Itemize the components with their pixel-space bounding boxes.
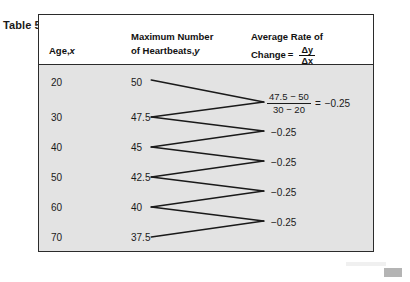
column-header-heartbeats-line2: of Heartbeats, <box>131 45 194 58</box>
data-table: Age, x Maximum Number of Heartbeats, y A… <box>38 14 374 252</box>
connector-line <box>151 80 263 102</box>
cell-age: 50 <box>51 172 62 183</box>
column-header-heartbeats-line1: Maximum Number <box>131 31 213 44</box>
rate-fraction: 47.5 − 50 30 − 20 <box>267 91 311 116</box>
cell-age: 60 <box>51 202 62 213</box>
column-header-age-text: Age, <box>49 45 70 58</box>
delta-fraction: Δy Δx <box>299 45 314 66</box>
column-header-rate-line2: Change <box>251 49 286 62</box>
cell-heartbeats: 37.5 <box>131 232 150 243</box>
column-header-heartbeats-variable: y <box>194 45 199 58</box>
cell-rate-value: −0.25 <box>271 187 296 198</box>
connector-line <box>151 221 263 237</box>
cell-rate-value: −0.25 <box>271 217 296 228</box>
connector-line <box>151 131 263 147</box>
table-header: Age, x Maximum Number of Heartbeats, y A… <box>39 15 373 65</box>
page-artifact-light <box>346 262 386 266</box>
rate-denominator: 30 − 20 <box>271 104 307 116</box>
column-header-rate: Average Rate of Change = Δy Δx <box>251 31 323 66</box>
cell-age: 20 <box>51 77 62 88</box>
table-body: 20 30 40 50 60 70 50 47.5 45 42.5 40 37.… <box>39 65 373 251</box>
column-header-age-variable: x <box>70 45 75 58</box>
cell-age: 30 <box>51 112 62 123</box>
cell-heartbeats: 42.5 <box>131 172 150 183</box>
rate-value: −0.25 <box>325 98 350 109</box>
page-artifact <box>384 268 402 277</box>
table-caption: Table 5 <box>3 19 41 31</box>
connector-line <box>151 161 263 177</box>
cell-rate-expression: 47.5 − 50 30 − 20 = −0.25 <box>267 91 350 116</box>
cell-rate-value: −0.25 <box>271 157 296 168</box>
table-figure: Table 5 Age, x Maximum Number of Heartbe… <box>0 0 410 282</box>
connector-line <box>151 147 263 161</box>
connector-line <box>151 117 263 131</box>
cell-heartbeats: 47.5 <box>131 112 150 123</box>
column-header-rate-equals: = <box>288 49 294 62</box>
cell-age: 40 <box>51 142 62 153</box>
connector-line <box>151 102 263 117</box>
cell-heartbeats: 50 <box>131 77 142 88</box>
connector-line <box>151 191 263 207</box>
cell-heartbeats: 45 <box>131 142 142 153</box>
rate-equals-sign: = <box>315 98 321 109</box>
cell-heartbeats: 40 <box>131 202 142 213</box>
delta-y-numerator: Δy <box>299 45 314 55</box>
connector-line <box>151 177 263 191</box>
column-header-rate-line1: Average Rate of <box>251 31 323 44</box>
column-header-heartbeats: Maximum Number of Heartbeats, y <box>131 31 213 57</box>
cell-rate-value: −0.25 <box>271 127 296 138</box>
rate-numerator: 47.5 − 50 <box>267 91 311 103</box>
cell-age: 70 <box>51 232 62 243</box>
connector-line <box>151 207 263 221</box>
column-header-age: Age, x <box>49 44 75 58</box>
